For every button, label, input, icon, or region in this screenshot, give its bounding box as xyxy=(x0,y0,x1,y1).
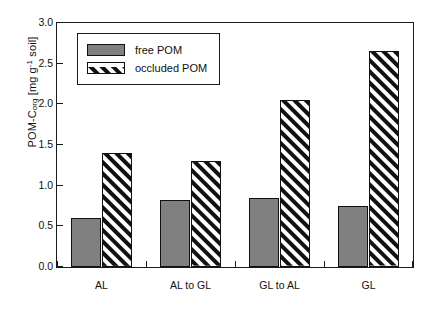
chart-legend: free POM occluded POM xyxy=(77,33,220,85)
x-axis-tick xyxy=(146,261,147,267)
bar-hatch-fill xyxy=(281,101,309,266)
y-axis-tick: 0.5 xyxy=(57,225,63,226)
x-axis-tick xyxy=(235,261,236,267)
y-axis-tick-label: 2.5 xyxy=(38,57,53,69)
x-axis-tick xyxy=(57,261,58,267)
y-axis-tick-label: 0.5 xyxy=(38,219,53,231)
bar-free-al xyxy=(71,218,101,267)
x-axis-tick xyxy=(324,261,325,267)
y-axis-tick-label: 1.5 xyxy=(38,138,53,150)
legend-swatch-occluded-pom xyxy=(87,62,125,74)
y-axis-title: POM-Corg [mg g-1 soil] xyxy=(25,0,39,202)
y-axis-tick-label: 1.0 xyxy=(38,179,53,191)
legend-label-occluded-pom: occluded POM xyxy=(135,62,207,74)
y-axis-title-unit-pre: [mg g xyxy=(26,67,38,98)
y-axis-title-unit-post: soil] xyxy=(26,37,38,60)
bar-free-gl xyxy=(338,206,368,267)
legend-entry-occluded-pom: occluded POM xyxy=(87,59,207,77)
y-axis-title-superscript: -1 xyxy=(25,60,34,67)
x-axis-category-label: AL to GL xyxy=(170,279,211,291)
x-axis-category-label: GL to AL xyxy=(259,279,299,291)
plot-area: 0.00.51.01.52.02.53.0 ALAL to GLGL to AL… xyxy=(56,22,414,268)
y-axis-tick: 3.0 xyxy=(57,22,63,23)
bar-occluded-al-to-gl xyxy=(191,161,221,267)
x-axis-tick xyxy=(412,261,413,267)
legend-swatch-free-pom xyxy=(87,44,125,56)
bar-occluded-gl xyxy=(369,51,399,267)
y-axis-title-main: POM-C xyxy=(26,110,38,147)
legend-swatch-hatch-fill xyxy=(88,63,124,73)
y-axis-tick: 1.0 xyxy=(57,185,63,186)
bar-occluded-gl-to-al xyxy=(280,100,310,267)
bar-chart-figure: POM-Corg [mg g-1 soil] 0.00.51.01.52.02.… xyxy=(0,0,430,312)
legend-entry-free-pom: free POM xyxy=(87,41,207,59)
y-axis-tick: 2.5 xyxy=(57,63,63,64)
x-axis-category-label: AL xyxy=(95,279,108,291)
bar-hatch-fill xyxy=(370,52,398,266)
y-axis-tick-label: 0.0 xyxy=(38,260,53,272)
bar-free-gl-to-al xyxy=(249,198,279,267)
y-axis-tick: 1.5 xyxy=(57,144,63,145)
y-axis-tick-label: 2.0 xyxy=(38,97,53,109)
legend-label-free-pom: free POM xyxy=(135,44,182,56)
bar-hatch-fill xyxy=(103,154,131,266)
x-axis-category-label: GL xyxy=(361,279,375,291)
y-axis-tick-label: 3.0 xyxy=(38,16,53,28)
bar-occluded-al xyxy=(102,153,132,267)
y-axis-tick: 2.0 xyxy=(57,103,63,104)
bar-free-al-to-gl xyxy=(160,200,190,268)
bar-hatch-fill xyxy=(192,162,220,266)
